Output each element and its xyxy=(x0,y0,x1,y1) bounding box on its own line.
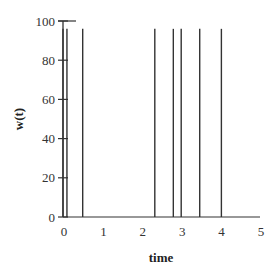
x-tick-label: 2 xyxy=(140,224,147,239)
x-axis-label: time xyxy=(149,250,174,265)
y-tick-label: 100 xyxy=(36,14,56,29)
y-tick-label: 0 xyxy=(49,210,56,225)
spike-series xyxy=(63,29,221,217)
y-tick-label: 80 xyxy=(42,53,55,68)
x-tick-label: 0 xyxy=(61,224,68,239)
y-tick-label: 20 xyxy=(42,170,55,185)
x-tick-label: 3 xyxy=(179,224,186,239)
x-tick-label: 5 xyxy=(258,224,265,239)
spike-chart: 020406080100 012345 w(t) time xyxy=(0,0,275,272)
y-tick-label: 40 xyxy=(42,131,55,146)
y-tick-label: 60 xyxy=(42,92,55,107)
x-tick-label: 1 xyxy=(100,224,107,239)
y-axis-label: w(t) xyxy=(11,108,26,130)
x-axis: 012345 xyxy=(61,217,265,239)
x-tick-label: 4 xyxy=(218,224,225,239)
y-axis: 020406080100 xyxy=(36,14,77,225)
